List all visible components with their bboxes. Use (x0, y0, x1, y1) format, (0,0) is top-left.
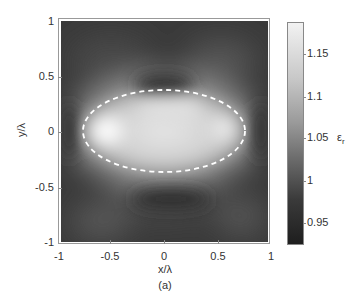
ytick-label: -0.5 (24, 181, 54, 193)
xtick-label: 1 (256, 250, 286, 262)
xtick-label: 0.5 (203, 250, 233, 262)
ytick-label: 0 (24, 125, 54, 137)
colorbar (287, 22, 304, 245)
colorbar-tick-mark (303, 181, 306, 182)
heatmap-svg (61, 21, 268, 242)
colorbar-tick-mark (303, 223, 306, 224)
ytick-label: 1 (24, 15, 54, 27)
xtick-label: -1 (44, 250, 74, 262)
ytick-mark (58, 188, 62, 189)
colorbar-label-sub: r (342, 137, 345, 146)
y-axis-label: y/λ (15, 115, 27, 145)
ytick-mark (58, 132, 62, 133)
heatmap-image (61, 21, 268, 242)
colorbar-tick-label: 1.15 (307, 47, 328, 59)
colorbar-tick-mark (303, 97, 306, 98)
colorbar-tick-mark (303, 138, 306, 139)
xtick-mark (110, 240, 111, 244)
colorbar-tick-label: 0.95 (307, 216, 328, 228)
xtick-label: -0.5 (95, 250, 125, 262)
colorbar-tick-label: 1 (307, 174, 313, 186)
xtick-mark (164, 240, 165, 244)
figure-caption: (a) (150, 279, 180, 291)
ytick-mark (58, 77, 62, 78)
colorbar-label: εr (337, 131, 345, 146)
x-axis-label: x/λ (150, 263, 180, 275)
ytick-label: 0.5 (24, 70, 54, 82)
xtick-mark (218, 240, 219, 244)
xtick-label: 0 (149, 250, 179, 262)
colorbar-tick-label: 1.1 (307, 90, 322, 102)
colorbar-tick-mark (303, 54, 306, 55)
ytick-label: -1 (24, 236, 54, 248)
colorbar-tick-label: 1.05 (307, 131, 328, 143)
